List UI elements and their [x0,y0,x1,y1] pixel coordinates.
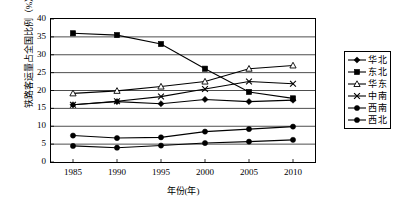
y-tick-label: 15 [24,103,46,112]
plot-area [50,18,316,163]
data-point-marker [246,127,251,132]
legend-label: 华东 [367,80,387,89]
legend-point-marker [354,117,359,122]
data-point-marker [158,143,163,148]
data-point-marker [70,133,75,138]
data-point-marker [158,135,163,140]
y-axis-tick-labels: 4035302520151050 [24,12,46,168]
legend-marker-icon [347,102,367,114]
x-tick-label: 1995 [152,167,170,177]
chart-figure: 铁路客运量占全国比例（%） 4035302520151050 198519901… [0,0,405,205]
legend-item-东北[interactable]: 东北 [347,66,387,78]
x-axis-title: 年份(年) [50,184,316,197]
legend-item-西北[interactable]: 西北 [347,114,387,126]
legend-marker-icon [347,54,367,66]
data-point-marker [70,31,75,36]
series-line [73,33,293,98]
data-point-marker [202,66,207,71]
plot-svg [51,19,315,162]
legend-marker-icon [347,114,367,126]
y-tick-label: 0 [24,157,46,166]
data-point-marker [158,101,164,107]
series-西北 [70,137,295,150]
data-point-marker [70,143,75,148]
data-point-marker [202,129,207,134]
data-point-marker [158,41,163,46]
series-line [73,140,293,148]
legend-point-marker [354,57,360,63]
data-point-marker [202,96,208,102]
series-line [73,65,293,93]
y-tick-label: 25 [24,68,46,77]
legend-point-marker [354,69,359,74]
legend-item-西南[interactable]: 西南 [347,102,387,114]
data-point-marker [114,145,119,150]
legend-item-华东[interactable]: 华东 [347,78,387,90]
legend-label: 华北 [367,56,387,65]
data-point-marker [246,89,251,94]
legend-marker-icon [347,78,367,90]
y-tick-label: 10 [24,121,46,130]
y-tick-label: 40 [24,14,46,23]
x-tick-label: 2010 [284,167,302,177]
data-point-marker [246,98,252,104]
legend-item-中南[interactable]: 中南 [347,90,387,102]
data-point-marker [114,32,119,37]
y-tick-label: 5 [24,139,46,148]
data-point-marker [290,96,295,101]
legend-point-marker [354,105,359,110]
legend-label: 东北 [367,68,387,77]
x-axis-tick-labels: 198519901995200020052010 [50,167,316,181]
legend-label: 中南 [367,92,387,101]
chart-legend: 华北东北华东中南西南西北 [344,51,391,129]
data-point-marker [290,124,295,129]
y-tick-label: 20 [24,86,46,95]
x-tick-label: 2005 [240,167,258,177]
data-point-marker [290,137,295,142]
data-point-marker [246,139,251,144]
x-tick-label: 2000 [196,167,214,177]
data-point-marker [114,135,119,140]
x-tick-label: 1990 [108,167,126,177]
legend-label: 西北 [367,116,387,125]
legend-label: 西南 [367,104,387,113]
y-tick-label: 35 [24,32,46,41]
data-point-marker [202,140,207,145]
legend-item-华北[interactable]: 华北 [347,54,387,66]
legend-marker-icon [347,66,367,78]
y-tick-label: 30 [24,50,46,59]
series-中南 [70,79,296,108]
series-line [73,127,293,138]
legend-marker-icon [347,90,367,102]
x-tick-label: 1985 [64,167,82,177]
